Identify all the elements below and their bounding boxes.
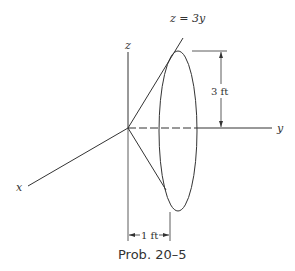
height-arrow-top-icon xyxy=(219,52,223,58)
z-axis-label: z xyxy=(124,39,131,52)
line-z-equals-3y-label: z = 3y xyxy=(169,12,206,25)
cone-base-ellipse xyxy=(159,51,197,211)
height-dimension-label: 3 ft xyxy=(211,86,228,97)
cone-diagram: z z = 3y x y 3 ft 1 ft Prob. 20–5 xyxy=(0,0,295,271)
depth-dimension-label: 1 ft xyxy=(141,230,158,241)
x-axis-label: x xyxy=(16,181,23,194)
y-axis-label: y xyxy=(276,122,284,135)
height-arrow-bottom-icon xyxy=(219,121,223,127)
depth-arrow-left-icon xyxy=(129,233,135,237)
depth-arrow-right-icon xyxy=(163,233,169,237)
figure-caption: Prob. 20–5 xyxy=(118,247,186,262)
x-axis xyxy=(28,128,128,186)
